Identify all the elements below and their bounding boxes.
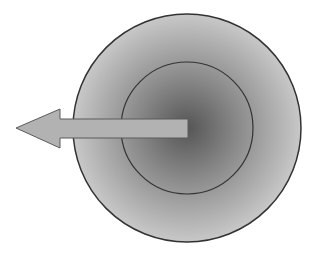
concentric-circle-diagram (0, 0, 316, 261)
